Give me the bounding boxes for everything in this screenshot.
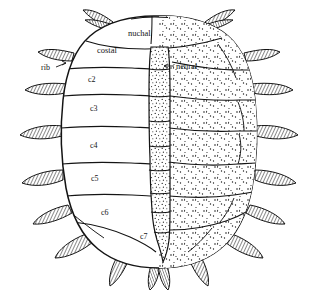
label-c6: c6	[101, 208, 109, 217]
label-neural: neural	[176, 61, 198, 71]
label-c5: c5	[91, 174, 99, 183]
label-c7: c7	[140, 232, 148, 241]
label-nuchal: nuchal	[128, 28, 151, 38]
label-c3: c3	[90, 104, 98, 113]
label-c4: c4	[90, 141, 98, 150]
label-c2: c2	[88, 75, 96, 84]
label-costal: costal	[97, 45, 117, 55]
label-rib: rib	[41, 63, 50, 72]
carapace-drawing: nuchal costal neural rib c2 c3 c4 c5 c6 …	[0, 0, 318, 291]
carapace-figure: nuchal costal neural rib c2 c3 c4 c5 c6 …	[0, 0, 318, 291]
